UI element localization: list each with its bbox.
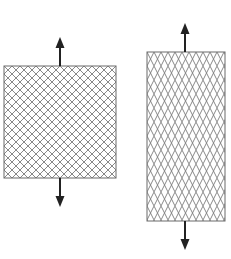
arrow-up-icon [56,37,65,66]
stretched-mesh-panel [147,23,225,250]
unstretched-mesh-panel [4,37,116,207]
stretched-mesh [147,52,225,221]
arrow-down-icon [181,221,190,250]
arrow-down-icon [56,178,65,207]
diagram-canvas [0,0,231,259]
arrow-up-icon [181,23,190,52]
unstretched-mesh [4,66,116,178]
